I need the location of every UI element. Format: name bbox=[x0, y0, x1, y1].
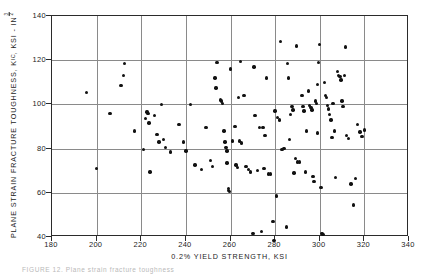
data-point bbox=[310, 108, 313, 111]
data-point bbox=[356, 123, 359, 126]
gridline-vertical bbox=[231, 16, 232, 235]
data-point bbox=[279, 40, 282, 43]
data-point bbox=[252, 65, 255, 68]
data-point bbox=[343, 74, 346, 77]
data-point bbox=[85, 91, 88, 94]
data-point bbox=[263, 134, 266, 137]
data-point bbox=[272, 239, 275, 242]
data-point bbox=[287, 76, 290, 79]
data-point bbox=[286, 62, 289, 65]
data-point bbox=[292, 171, 295, 174]
data-point bbox=[225, 161, 228, 164]
data-point bbox=[328, 113, 331, 116]
x-tick-label: 240 bbox=[178, 240, 191, 249]
y-tick-label: 120 bbox=[33, 55, 46, 64]
data-point bbox=[184, 149, 187, 152]
x-tick-label: 340 bbox=[401, 240, 414, 249]
gridline-horizontal bbox=[52, 104, 407, 105]
data-point bbox=[251, 232, 254, 235]
data-point bbox=[231, 139, 234, 142]
data-point bbox=[316, 131, 319, 134]
y-tick-label: 100 bbox=[33, 99, 46, 108]
data-point bbox=[295, 44, 298, 47]
x-tick-label: 260 bbox=[223, 240, 236, 249]
data-point bbox=[285, 225, 288, 228]
data-point bbox=[291, 108, 294, 111]
data-point bbox=[363, 128, 366, 131]
data-point bbox=[289, 113, 292, 116]
data-point bbox=[339, 78, 342, 81]
data-point bbox=[237, 96, 240, 99]
data-point bbox=[336, 70, 339, 73]
y-axis-title-lead: PLANE STRAIN FRACTURE TOUGHNESS, K bbox=[9, 60, 18, 238]
data-point bbox=[262, 167, 265, 170]
data-point bbox=[160, 103, 163, 106]
data-point bbox=[189, 103, 192, 106]
data-point bbox=[249, 170, 252, 173]
figure-caption: FIGURE 12. Plane strain fracture toughne… bbox=[22, 266, 174, 273]
data-point bbox=[312, 180, 315, 183]
x-axis-title: 0.2% YIELD STRENGTH, KSI bbox=[51, 252, 408, 261]
data-point bbox=[333, 129, 336, 132]
gridline-vertical bbox=[186, 16, 187, 235]
data-point bbox=[265, 76, 268, 79]
data-point bbox=[236, 166, 239, 169]
data-point bbox=[301, 105, 304, 108]
data-point bbox=[213, 76, 216, 79]
data-point bbox=[318, 43, 321, 46]
data-point bbox=[142, 148, 145, 151]
y-axis-title: PLANE STRAIN FRACTURE TOUGHNESS, KIC, KS… bbox=[6, 15, 20, 236]
data-point bbox=[95, 167, 98, 170]
data-point bbox=[123, 62, 126, 65]
x-tick-label: 300 bbox=[312, 240, 325, 249]
y-axis-title-mid: , KSI - IN bbox=[9, 17, 18, 55]
data-point bbox=[315, 102, 318, 105]
data-point bbox=[242, 94, 245, 97]
data-point bbox=[211, 165, 214, 168]
data-point bbox=[200, 168, 203, 171]
data-point bbox=[329, 118, 332, 121]
data-point bbox=[347, 137, 350, 140]
y-tick-label: 140 bbox=[33, 11, 46, 20]
data-point bbox=[144, 117, 147, 120]
data-point bbox=[148, 170, 151, 173]
data-point bbox=[209, 159, 212, 162]
data-point bbox=[223, 140, 226, 143]
scatter-plot-figure: PLANE STRAIN FRACTURE TOUGHNESS, KIC, KS… bbox=[0, 0, 425, 275]
gridline-vertical bbox=[97, 16, 98, 235]
data-point bbox=[256, 169, 259, 172]
y-tick-label: 60 bbox=[37, 187, 46, 196]
data-point bbox=[311, 175, 314, 178]
data-point bbox=[354, 177, 357, 180]
data-point bbox=[177, 123, 180, 126]
y-tick-label: 80 bbox=[37, 143, 46, 152]
data-point bbox=[304, 170, 307, 173]
data-point bbox=[330, 136, 333, 139]
gridline-horizontal bbox=[52, 149, 407, 150]
gridline-horizontal bbox=[52, 60, 407, 61]
data-point bbox=[119, 84, 122, 87]
x-tick-label: 220 bbox=[134, 240, 147, 249]
data-point bbox=[316, 83, 319, 86]
data-point bbox=[214, 86, 217, 89]
data-point bbox=[282, 147, 285, 150]
data-point bbox=[340, 99, 343, 102]
data-point bbox=[147, 121, 150, 124]
data-point bbox=[261, 126, 264, 129]
gridline-vertical bbox=[141, 16, 142, 235]
data-point bbox=[319, 186, 322, 189]
data-point bbox=[269, 172, 272, 175]
data-point bbox=[271, 220, 274, 223]
data-point bbox=[325, 96, 328, 99]
data-point bbox=[108, 112, 111, 115]
data-point bbox=[193, 163, 196, 166]
gridline-vertical bbox=[320, 16, 321, 235]
data-point bbox=[323, 81, 326, 84]
data-point bbox=[307, 89, 310, 92]
y-tick bbox=[46, 236, 51, 237]
data-point bbox=[344, 45, 347, 48]
data-point bbox=[204, 126, 207, 129]
data-point bbox=[240, 141, 243, 144]
data-point bbox=[331, 102, 334, 105]
x-tick-label: 200 bbox=[89, 240, 102, 249]
